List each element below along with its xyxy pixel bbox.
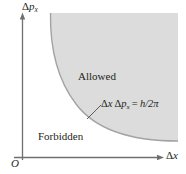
y-axis-label: Δpx	[22, 1, 38, 14]
forbidden-label: Forbidden	[38, 131, 83, 142]
origin-label: O	[11, 158, 19, 169]
equation-right-side: h/2π	[140, 98, 159, 109]
equation-var-x: x	[108, 98, 113, 109]
allowed-label: Allowed	[78, 71, 116, 82]
x-axis-arrowhead	[157, 155, 164, 160]
equation-delta-1: Δ	[101, 98, 108, 109]
equation-var-p-subscript: x	[127, 103, 130, 111]
equation-equals: =	[132, 98, 138, 109]
uncertainty-principle-figure: Δpx Δx O Allowed Forbidden Δx Δpx = h/2π	[0, 0, 186, 174]
x-axis-label: Δx	[166, 150, 178, 161]
plot-area	[0, 0, 186, 174]
uncertainty-equation-label: Δx Δpx = h/2π	[101, 99, 159, 111]
x-axis-label-var: x	[173, 149, 178, 161]
y-axis-label-subscript: x	[35, 5, 38, 14]
